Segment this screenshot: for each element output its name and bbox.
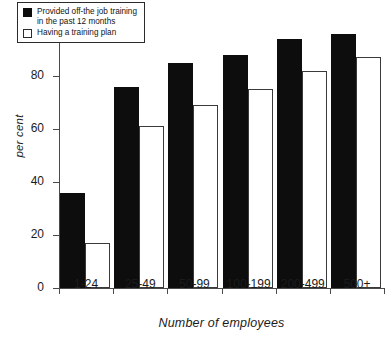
y-axis-tick-label: 60	[31, 121, 44, 135]
y-axis-tick: 20	[53, 235, 59, 236]
chart-legend: Provided off-the job training in the pas…	[17, 2, 145, 43]
x-axis-category-label: 500+	[330, 277, 384, 291]
bar-provided-training	[331, 34, 356, 288]
legend-swatch-filled-square	[23, 8, 32, 17]
bar-training-plan	[139, 126, 164, 288]
x-axis-tick	[384, 288, 385, 294]
bar-provided-training	[168, 63, 193, 288]
bar-group	[60, 23, 110, 288]
y-axis-tick-label: 20	[31, 227, 44, 241]
x-axis-category-label: 1-24	[59, 277, 113, 291]
bar-group	[223, 23, 273, 288]
y-axis-tick-label: 40	[31, 174, 44, 188]
bar-training-plan	[356, 57, 381, 288]
y-axis-tick: 60	[53, 129, 59, 130]
bar-provided-training	[223, 55, 248, 288]
bar-chart: per cent 020406080100 1-2425-4950-99100-…	[0, 0, 390, 339]
x-axis-title: Number of employees	[59, 316, 384, 330]
x-axis-category-label: 200-499	[276, 277, 330, 291]
legend-label: Having a training plan	[37, 28, 116, 38]
y-axis-tick-label: 80	[31, 68, 44, 82]
y-axis-tick: 80	[53, 76, 59, 77]
bar-provided-training	[114, 87, 139, 288]
legend-item-training-plan: Having a training plan	[23, 28, 137, 38]
plot-area: 020406080100	[59, 23, 384, 288]
x-axis-category-label: 25-49	[113, 277, 167, 291]
x-axis-category-label: 50-99	[167, 277, 221, 291]
bar-training-plan	[302, 71, 327, 288]
bar-group	[277, 23, 327, 288]
legend-label: Provided off-the job training in the pas…	[37, 7, 137, 26]
bar-training-plan	[248, 89, 273, 288]
bar-provided-training	[60, 193, 85, 288]
y-axis-tick: 40	[53, 182, 59, 183]
bar-group	[331, 23, 381, 288]
legend-swatch-hollow-square	[23, 29, 32, 38]
bar-training-plan	[193, 105, 218, 288]
legend-item-provided-training: Provided off-the job training in the pas…	[23, 7, 137, 26]
bar-group	[168, 23, 218, 288]
bar-provided-training	[277, 39, 302, 288]
x-axis-category-label: 100-199	[222, 277, 276, 291]
y-axis-tick-label: 0	[37, 280, 44, 294]
y-axis-title: per cent	[13, 91, 25, 181]
bar-group	[114, 23, 164, 288]
